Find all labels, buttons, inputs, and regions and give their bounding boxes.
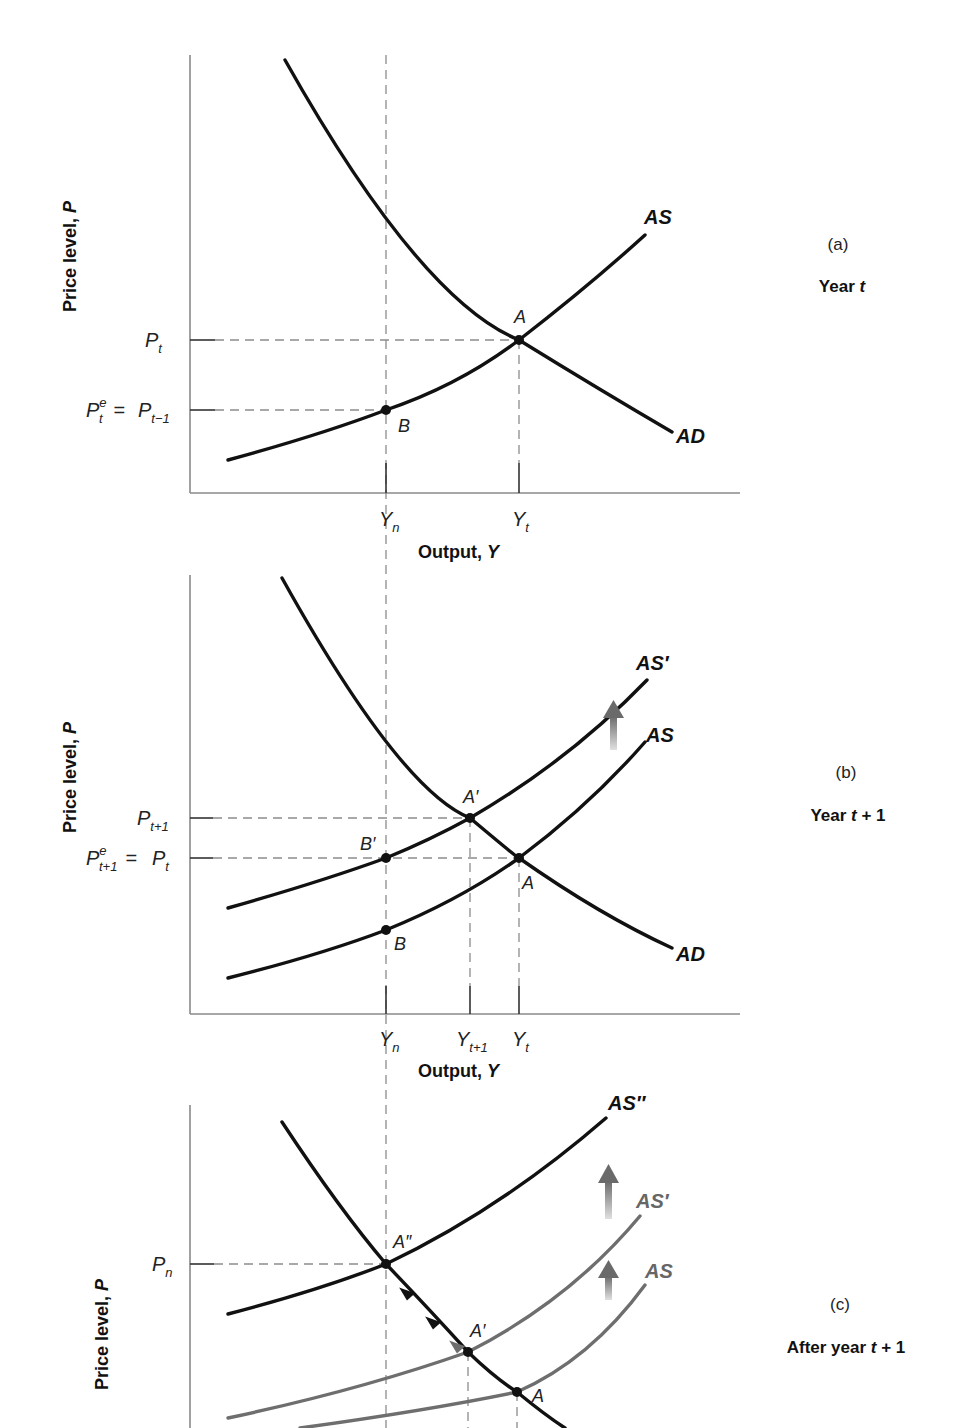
panel-label: (c): [830, 1295, 850, 1314]
panel-label: (b): [836, 763, 857, 782]
point-a: [512, 1387, 522, 1397]
panel-caption: Year t: [819, 277, 867, 296]
as-curve-label: AS: [643, 206, 672, 228]
as-prime-curve: [228, 680, 647, 908]
panel-b: A′ B′ A B AS′ AS AD Pt+1 Pe t+1 = Pt Yn …: [60, 575, 886, 1081]
point-b: [381, 405, 391, 415]
point-a: [514, 335, 524, 345]
ad-curve: [285, 60, 672, 432]
svg-text:=: =: [108, 399, 131, 421]
point-a-label: A: [531, 1386, 544, 1406]
x-axis-title: Output, Y: [418, 542, 501, 562]
as-double-prime-curve: [228, 1118, 606, 1314]
as-curve: [228, 235, 645, 460]
x-tick-yt1: Yt+1: [456, 1028, 488, 1055]
panel-c: A″ A′ A AS″ AS′ AS Pn Price level, P (c)…: [92, 1092, 905, 1428]
shift-up-arrow-icon: [598, 1260, 619, 1300]
point-a: [514, 853, 524, 863]
point-a-label: A: [521, 873, 534, 893]
point-a-double-prime-label: A″: [392, 1232, 412, 1252]
svg-text:Pt−1: Pt−1: [138, 399, 170, 426]
y-tick-pe: Pe t = Pt−1: [86, 395, 170, 426]
svg-text:Yn: Yn: [379, 508, 400, 535]
svg-text:Yt: Yt: [512, 1028, 530, 1055]
y-tick-pn: Pn: [152, 1253, 173, 1280]
svg-text:Pn: Pn: [152, 1253, 173, 1280]
panel-caption: Year t + 1: [810, 806, 885, 825]
ad-curve: [282, 578, 672, 948]
point-b-prime: [381, 853, 391, 863]
svg-text:=: =: [120, 847, 143, 869]
point-a-prime-label: A′: [462, 787, 479, 807]
y-tick-pt: Pt: [145, 329, 163, 356]
as-curve-label: AS: [644, 1260, 673, 1282]
ad-direction-arrows-icon: [397, 1282, 465, 1354]
svg-text:Yn: Yn: [379, 1028, 400, 1055]
point-a-label: A: [513, 307, 526, 327]
as-curve-label: AS: [645, 724, 674, 746]
x-tick-yt: Yt: [512, 508, 530, 535]
panel-a: A B AS AD Pt Pe t = Pt−1 Yn Yt Output, Y…: [60, 55, 866, 562]
x-axis-title: Output, Y: [418, 1061, 501, 1081]
svg-text:Pt: Pt: [145, 329, 163, 356]
as-curve: [228, 742, 645, 978]
y-tick-pt1: Pt+1: [137, 807, 169, 834]
point-b: [381, 925, 391, 935]
svg-text:t: t: [99, 411, 104, 426]
point-a-double-prime: [381, 1259, 391, 1269]
ad-curve-label: AD: [675, 425, 705, 447]
y-axis-title: Price level, P: [60, 721, 80, 833]
shift-up-arrow-icon: [598, 1164, 619, 1219]
point-a-prime: [465, 813, 475, 823]
as-double-prime-curve-label: AS″: [607, 1092, 647, 1114]
ad-curve: [282, 1122, 565, 1428]
panel-caption: After year t + 1: [787, 1338, 906, 1357]
x-tick-yn: Yn: [379, 1028, 400, 1055]
svg-text:Yt+1: Yt+1: [456, 1028, 488, 1055]
point-a-prime-label: A′: [469, 1321, 486, 1341]
ad-curve-label: AD: [675, 943, 705, 965]
point-b-prime-label: B′: [360, 834, 376, 854]
as-prime-curve-label: AS′: [635, 1190, 670, 1212]
svg-text:Pt+1: Pt+1: [137, 807, 169, 834]
point-b-label: B: [394, 934, 406, 954]
svg-text:t+1: t+1: [99, 859, 117, 874]
svg-text:Pt: Pt: [152, 847, 170, 874]
svg-text:Pe: Pe: [86, 395, 107, 421]
panel-label: (a): [828, 235, 849, 254]
svg-text:Yt: Yt: [512, 508, 530, 535]
x-tick-yt: Yt: [512, 1028, 530, 1055]
as-prime-curve-label: AS′: [635, 652, 670, 674]
as-ad-diagram: A B AS AD Pt Pe t = Pt−1 Yn Yt Output, Y…: [0, 0, 972, 1428]
point-b-label: B: [398, 416, 410, 436]
y-axis-title: Price level, P: [92, 1278, 112, 1390]
y-axis-title: Price level, P: [60, 200, 80, 312]
x-tick-yn: Yn: [379, 508, 400, 535]
point-a-prime: [463, 1347, 473, 1357]
y-tick-pe1: Pe t+1 = Pt: [86, 843, 170, 874]
